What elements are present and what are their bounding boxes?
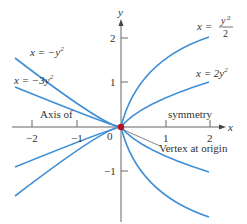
origin-label: 0 (107, 130, 113, 142)
svg-text:x =: x = (196, 20, 212, 32)
x-axis-arrow-icon (219, 125, 226, 130)
label-x-neg-y2: x = −y2 (29, 45, 64, 58)
y-axis-label: y (117, 6, 123, 18)
label-x-half-y2: x = y 2 2 (196, 14, 233, 39)
svg-text:x = −3y2: x = −3y2 (13, 73, 54, 86)
parabola-diagram: x y −2 −1 1 2 0 2 1 −1 x = −y2 x = −3y2 … (0, 0, 247, 224)
svg-text:y: y (220, 15, 226, 26)
vertex-dot (118, 124, 124, 130)
y-axis-arrow-icon (119, 19, 124, 26)
label-x-2y2: x = 2y2 (195, 66, 228, 79)
y-ticks (121, 38, 128, 171)
svg-text:x = −y2: x = −y2 (29, 45, 64, 58)
label-x-neg-3y2: x = −3y2 (13, 73, 54, 86)
x-tick-label: −1 (71, 132, 83, 144)
y-tick-label: −1 (104, 165, 116, 177)
axis-of-label: Axis of (40, 108, 73, 120)
vertex-label: Vertex at origin (159, 142, 228, 154)
svg-text:2: 2 (223, 28, 228, 39)
svg-text:2: 2 (227, 14, 231, 22)
y-tick-label: 2 (110, 32, 116, 44)
svg-text:x = 2y2: x = 2y2 (195, 66, 228, 79)
y-tick-label: 1 (110, 76, 116, 88)
symmetry-label: symmetry (168, 108, 212, 120)
x-axis-label: x (227, 121, 233, 133)
x-tick-label: −2 (26, 132, 38, 144)
